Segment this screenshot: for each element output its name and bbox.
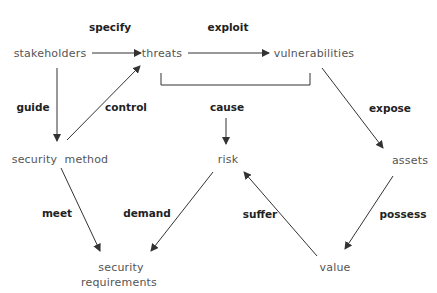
node-threats: threats [142,47,183,60]
diagram-edges [0,0,437,293]
label-meet: meet [42,207,72,219]
node-stakeholders: stakeholders [14,47,87,60]
label-cause: cause [210,101,244,113]
security-concept-diagram: stakeholders threats vulnerabilities sec… [0,0,437,293]
label-demand: demand [123,207,171,219]
node-security-requirements-line2: requirements [81,276,157,289]
label-guide: guide [16,101,49,113]
label-suffer: suffer [243,208,278,220]
label-exploit: exploit [208,21,249,33]
node-security-requirements-line1: security [98,261,144,274]
node-value: value [319,261,350,274]
node-risk: risk [218,153,238,166]
threat-vulnerability-bracket [161,73,310,85]
label-expose: expose [369,102,411,114]
node-vulnerabilities: vulnerabilities [274,47,355,60]
label-specify: specify [89,21,131,33]
label-possess: possess [380,208,427,220]
label-control: control [105,101,147,113]
node-security-method: security method [12,153,109,166]
node-assets: assets [392,154,428,167]
